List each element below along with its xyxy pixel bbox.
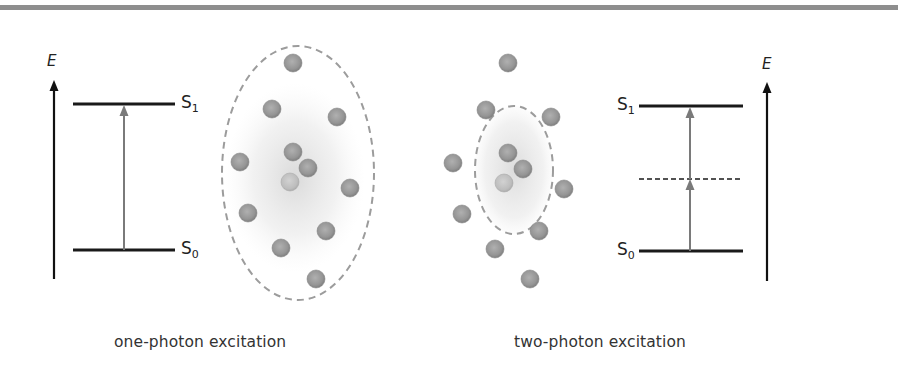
molecule [521,270,539,288]
second-photon-arrowhead-icon [686,107,695,118]
two-photon-caption: two-photon excitation [514,333,686,351]
molecule [444,154,462,172]
first-photon-arrowhead-icon [686,179,695,190]
s1-label: S1 [181,92,199,115]
molecule [499,144,517,162]
molecule [284,54,302,72]
molecule [530,222,548,240]
one-photon-caption: one-photon excitation [114,333,286,351]
one-photon-energy-diagram [50,80,176,279]
s0-label: S0 [181,238,199,261]
energy-axis-arrowhead-icon [50,80,59,91]
molecule [341,179,359,197]
s0-label-main: S [617,239,628,259]
energy-axis-arrowhead-icon [763,82,772,93]
s1-label-main: S [617,94,628,114]
molecule [486,240,504,258]
molecule [514,160,532,178]
s0-label-subscript: 0 [628,249,635,262]
molecule [239,204,257,222]
s1-label: S1 [617,94,635,117]
two-photon-energy-diagram [639,82,772,281]
s0-label: S0 [617,239,635,262]
excitation-arrowhead-icon [120,105,129,116]
molecule [328,108,346,126]
energy-axis-label: E [47,52,56,70]
molecule [453,205,471,223]
molecule [231,153,249,171]
molecule-excited [281,173,299,191]
two-photon-excitation-volume [444,54,573,288]
molecule [263,100,281,118]
one-photon-excitation-volume [222,46,374,300]
molecule [284,143,302,161]
energy-axis-label: E [762,55,771,73]
s0-label-main: S [181,238,192,258]
molecule [499,54,517,72]
molecule-excited [495,174,513,192]
molecule [307,270,325,288]
molecule [272,239,290,257]
s1-label-main: S [181,92,192,112]
s1-label-subscript: 1 [628,104,635,117]
molecule [555,180,573,198]
molecule [299,159,317,177]
s0-label-subscript: 0 [192,248,199,261]
molecule [542,108,560,126]
molecule [477,101,495,119]
s1-label-subscript: 1 [192,102,199,115]
molecule [317,222,335,240]
